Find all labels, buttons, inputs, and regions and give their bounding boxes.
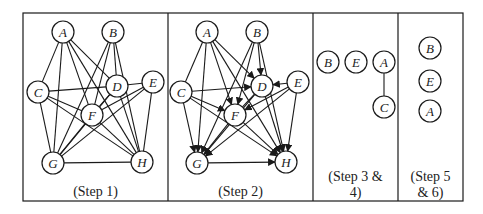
node-B: B	[317, 51, 339, 73]
node-E: E	[345, 51, 367, 73]
edge-E-H	[143, 93, 151, 151]
step-caption: & 6)	[417, 185, 443, 201]
edge-B-D	[114, 43, 116, 75]
node-B: B	[246, 21, 268, 43]
panel-step34-nodes: BEAC	[317, 51, 395, 118]
edge-B-F	[238, 43, 254, 105]
node-label: E	[148, 75, 157, 90]
edge-C-F	[48, 96, 82, 110]
edge-D-E	[128, 83, 142, 85]
node-label: G	[48, 156, 58, 171]
edge-G-H	[64, 162, 131, 163]
node-label: F	[230, 108, 240, 123]
diagram-canvas: ABCDEFGHABCDEFGHBEACBEA (Step 1)(Step 2)…	[0, 0, 483, 214]
node-label: C	[177, 85, 186, 100]
node-A: A	[373, 51, 395, 73]
node-A: A	[196, 21, 218, 43]
node-label: F	[87, 108, 97, 123]
edge-A-C	[185, 42, 202, 82]
step-caption: (Step 1)	[73, 184, 118, 200]
captions: (Step 1)(Step 2)(Step 3 &4)(Step 5& 6)	[73, 169, 450, 201]
node-A: A	[419, 100, 441, 122]
step-caption: 4)	[350, 185, 362, 201]
node-B: B	[419, 37, 441, 59]
node-label: E	[425, 74, 434, 89]
node-label: E	[293, 75, 302, 90]
edge-A-C	[42, 42, 59, 82]
node-label: A	[425, 104, 434, 119]
edge-G-H	[208, 162, 275, 163]
node-label: C	[34, 85, 43, 100]
edge-A-D	[71, 40, 109, 78]
edge-D-F	[242, 94, 254, 107]
node-B: B	[102, 21, 124, 43]
node-G: G	[42, 152, 64, 174]
edge-A-G	[198, 43, 206, 152]
node-label: B	[324, 55, 332, 70]
edge-E-D	[273, 83, 287, 85]
panel-step56-nodes: BEA	[419, 37, 441, 122]
node-label: A	[58, 25, 67, 40]
edge-C-F	[191, 96, 225, 110]
node-label: H	[280, 155, 291, 170]
node-F: F	[224, 104, 246, 126]
panel-step1-nodes: ABCDEFGH	[27, 21, 164, 174]
edge-A-G	[54, 43, 62, 152]
edge-A-F	[67, 42, 89, 104]
step-caption: (Step 5	[410, 169, 450, 185]
panel-step2	[183, 40, 296, 163]
node-A: A	[52, 21, 74, 43]
node-label: B	[426, 41, 434, 56]
node-E: E	[287, 71, 309, 93]
edge-C-G	[40, 103, 50, 152]
edge-E-H	[288, 93, 297, 151]
step-caption: (Step 2)	[218, 184, 263, 200]
edge-B-G	[58, 42, 109, 153]
node-H: H	[131, 151, 153, 173]
edge-F-H	[243, 122, 278, 154]
edge-B-G	[202, 42, 253, 153]
nodes: ABCDEFGHABCDEFGHBEACBEA	[27, 21, 441, 174]
step-caption: (Step 3 &	[328, 169, 383, 185]
node-C: C	[373, 96, 395, 118]
node-D: D	[251, 75, 273, 97]
edge-C-G	[183, 103, 194, 153]
node-label: A	[379, 55, 388, 70]
edge-B-F	[95, 43, 111, 105]
node-C: C	[27, 81, 49, 103]
node-label: A	[202, 25, 211, 40]
node-E: E	[419, 70, 441, 92]
node-label: C	[380, 100, 389, 115]
node-E: E	[142, 71, 164, 93]
node-label: H	[136, 155, 147, 170]
node-C: C	[170, 81, 192, 103]
node-D: D	[106, 75, 128, 97]
node-label: B	[109, 25, 117, 40]
node-label: D	[111, 79, 122, 94]
node-F: F	[81, 104, 103, 126]
node-label: B	[253, 25, 261, 40]
node-label: E	[351, 55, 360, 70]
node-label: G	[192, 156, 202, 171]
node-G: G	[186, 152, 208, 174]
dag-steps-figure: ABCDEFGHABCDEFGHBEACBEA (Step 1)(Step 2)…	[0, 0, 483, 214]
node-H: H	[275, 151, 297, 173]
panel-step1	[40, 40, 151, 163]
edge-F-H	[100, 123, 134, 155]
node-label: D	[256, 79, 267, 94]
